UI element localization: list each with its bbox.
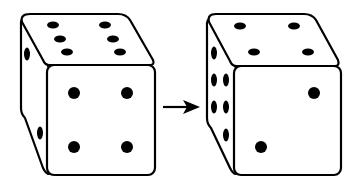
left-die-front-face — [47, 65, 155, 175]
pip-icon — [68, 87, 80, 99]
pip-icon — [121, 87, 133, 99]
left-die — [21, 14, 155, 175]
right-die-top-face — [209, 14, 339, 66]
pip-icon — [121, 141, 133, 153]
pip-icon — [54, 36, 66, 43]
pip-icon — [61, 49, 73, 56]
pip-icon — [114, 49, 126, 56]
pip-icon — [308, 87, 320, 99]
pip-icon — [107, 36, 119, 43]
pip-icon — [211, 74, 217, 87]
left-die-top-face — [22, 14, 154, 65]
arrow-icon — [163, 100, 200, 114]
pip-icon — [234, 23, 246, 30]
pip-icon — [211, 47, 217, 60]
right-die-front-face — [234, 66, 341, 175]
pip-icon — [223, 74, 229, 87]
pip-icon — [211, 101, 217, 114]
pip-icon — [255, 141, 267, 153]
pip-icon — [302, 49, 314, 56]
dice-rotation-diagram — [0, 0, 362, 186]
pip-icon — [248, 49, 260, 56]
pip-icon — [37, 127, 43, 140]
pip-icon — [68, 141, 80, 153]
pip-icon — [223, 101, 229, 114]
pip-icon — [99, 22, 111, 29]
pip-icon — [288, 23, 300, 30]
right-die — [207, 14, 341, 175]
diagram-canvas — [0, 0, 362, 186]
pip-icon — [24, 48, 30, 61]
pip-icon — [223, 129, 229, 142]
pip-icon — [47, 22, 59, 29]
